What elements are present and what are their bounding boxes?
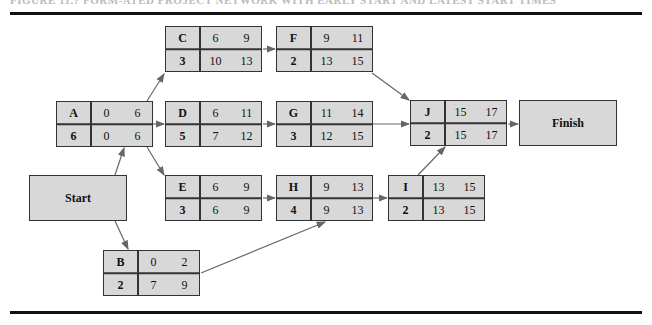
late-finish: 15 <box>342 125 373 147</box>
duration: 2 <box>389 199 422 221</box>
edge-i-j <box>418 147 445 175</box>
activity-node-i: I 13 15 2 13 15 <box>388 175 485 221</box>
late-start: 6 <box>200 199 231 221</box>
early-finish: 14 <box>342 102 373 124</box>
activity-node-f: F 9 11 2 13 15 <box>276 26 373 72</box>
early-finish: 6 <box>122 102 153 124</box>
early-start: 6 <box>200 176 231 198</box>
early-finish: 15 <box>454 176 485 198</box>
duration: 3 <box>166 199 199 221</box>
early-finish: 17 <box>476 101 507 123</box>
late-start: 13 <box>311 50 342 72</box>
edge-start-a <box>115 148 124 175</box>
late-start: 0 <box>91 125 122 147</box>
late-finish: 12 <box>231 125 262 147</box>
late-start: 7 <box>200 125 231 147</box>
late-start: 13 <box>423 199 454 221</box>
activity-node-b: B 0 2 2 7 9 <box>103 250 200 296</box>
duration: 6 <box>57 125 90 147</box>
late-start: 12 <box>311 125 342 147</box>
duration: 3 <box>166 50 199 72</box>
activity-name: I <box>389 176 422 198</box>
duration: 3 <box>277 125 310 147</box>
early-start: 0 <box>91 102 122 124</box>
early-start: 0 <box>138 251 169 273</box>
edge-b-h <box>201 222 325 273</box>
late-start: 7 <box>138 274 169 296</box>
start-node: Start <box>29 175 127 221</box>
early-start: 6 <box>200 102 231 124</box>
early-start: 6 <box>200 27 231 49</box>
activity-node-d: D 6 11 5 7 12 <box>165 101 262 147</box>
early-finish: 13 <box>342 176 373 198</box>
duration: 2 <box>104 274 137 296</box>
activity-name: B <box>104 251 137 273</box>
activity-name: C <box>166 27 199 49</box>
late-finish: 9 <box>231 199 262 221</box>
activity-name: G <box>277 102 310 124</box>
edge-a-e <box>147 147 164 175</box>
finish-label: Finish <box>552 116 584 131</box>
duration: 2 <box>277 50 310 72</box>
early-finish: 9 <box>231 27 262 49</box>
late-finish: 15 <box>342 50 373 72</box>
activity-name: E <box>166 176 199 198</box>
activity-node-c: C 6 9 3 10 13 <box>165 26 262 72</box>
activity-name: A <box>57 102 90 124</box>
early-start: 13 <box>423 176 454 198</box>
activity-name: F <box>277 27 310 49</box>
early-start: 15 <box>445 101 476 123</box>
duration: 2 <box>411 124 444 146</box>
late-finish: 6 <box>122 125 153 147</box>
duration: 5 <box>166 125 199 147</box>
activity-node-a: A 0 6 6 0 6 <box>56 101 153 147</box>
early-start: 9 <box>311 27 342 49</box>
activity-node-j: J 15 17 2 15 17 <box>410 100 507 146</box>
late-finish: 15 <box>454 199 485 221</box>
late-start: 15 <box>445 124 476 146</box>
activity-node-e: E 6 9 3 6 9 <box>165 175 262 221</box>
activity-name: J <box>411 101 444 123</box>
activity-name: H <box>277 176 310 198</box>
early-finish: 11 <box>342 27 373 49</box>
activity-node-g: G 11 14 3 12 15 <box>276 101 373 147</box>
early-finish: 2 <box>169 251 200 273</box>
late-finish: 17 <box>476 124 507 146</box>
late-finish: 9 <box>169 274 200 296</box>
edge-start-b <box>115 221 128 249</box>
early-start: 11 <box>311 102 342 124</box>
activity-name: D <box>166 102 199 124</box>
early-finish: 9 <box>231 176 262 198</box>
late-finish: 13 <box>231 50 262 72</box>
edge-a-c <box>147 74 164 101</box>
duration: 4 <box>277 199 310 221</box>
finish-node: Finish <box>519 100 617 146</box>
late-start: 10 <box>200 50 231 72</box>
early-finish: 11 <box>231 102 262 124</box>
early-start: 9 <box>311 176 342 198</box>
activity-node-h: H 9 13 4 9 13 <box>276 175 373 221</box>
edge-f-j <box>372 73 409 100</box>
late-start: 9 <box>311 199 342 221</box>
start-label: Start <box>65 191 91 206</box>
late-finish: 13 <box>342 199 373 221</box>
